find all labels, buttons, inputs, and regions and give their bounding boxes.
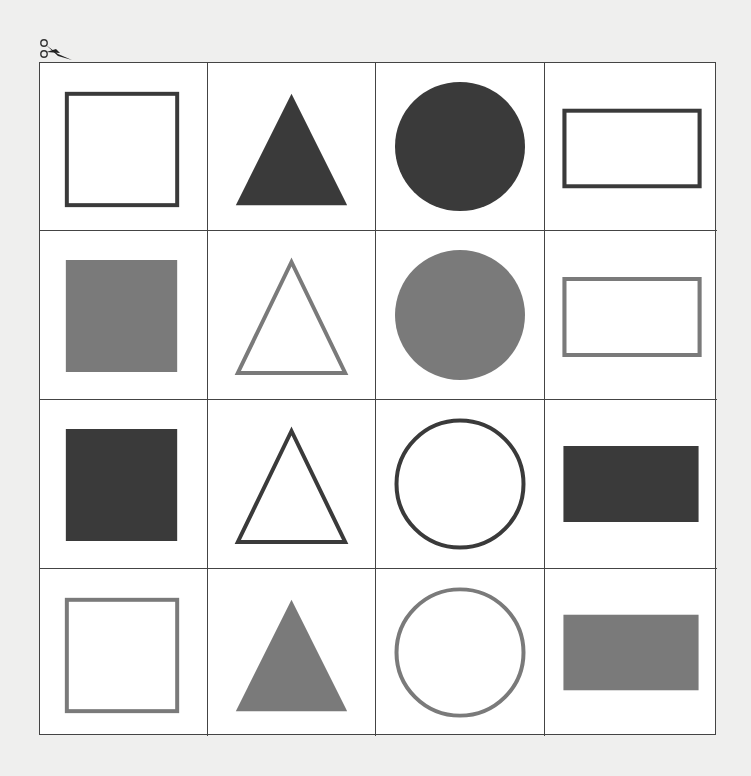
gray-filled-circle-icon [376, 231, 544, 399]
grid-cell [40, 231, 208, 400]
grid-cell [376, 569, 545, 736]
dark-filled-rectangle-icon [545, 400, 717, 568]
gray-filled-square-icon [40, 231, 207, 399]
grid-cell [40, 569, 208, 736]
gray-outline-rectangle-icon [545, 231, 717, 399]
dark-outline-circle-icon [376, 400, 544, 568]
grid-cell [208, 63, 376, 231]
grid-cell [208, 569, 376, 736]
gray-outline-square-icon [40, 569, 207, 736]
gray-outline-circle-icon [376, 569, 544, 736]
dark-filled-triangle-icon [208, 63, 375, 230]
grid-cell [545, 63, 717, 231]
gray-outline-triangle-icon [208, 231, 375, 399]
gray-filled-rectangle-icon [545, 569, 717, 736]
grid-cell [208, 400, 376, 569]
grid-cell [40, 63, 208, 231]
grid-cell [208, 231, 376, 400]
grid-cell [376, 63, 545, 231]
dark-filled-square-icon [40, 400, 207, 568]
grid-cell [40, 400, 208, 569]
grid-cell [376, 231, 545, 400]
grid-cell [545, 231, 717, 400]
grid-cell [545, 569, 717, 736]
scissors-icon [38, 38, 74, 64]
dark-outline-square-icon [40, 63, 207, 230]
grid-cell [376, 400, 545, 569]
dark-filled-circle-icon [376, 63, 544, 230]
grid-cell [545, 400, 717, 569]
gray-filled-triangle-icon [208, 569, 375, 736]
shape-grid [39, 62, 716, 735]
dark-outline-rectangle-icon [545, 63, 717, 230]
dark-outline-triangle-icon [208, 400, 375, 568]
